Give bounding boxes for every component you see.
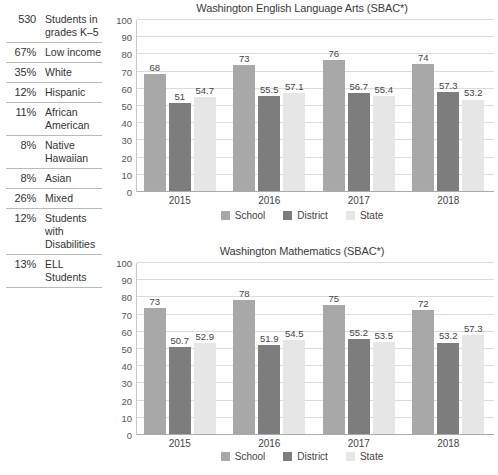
stat-row: 67%Low income	[6, 43, 102, 63]
bar-district-2016	[258, 96, 280, 191]
bar-value-label: 54.7	[196, 85, 215, 96]
bar-school-2016	[233, 65, 255, 191]
bar-state-2018	[462, 335, 484, 434]
bar-district-2017	[348, 339, 370, 434]
bar-state-2016	[283, 93, 305, 191]
stat-label: White	[45, 66, 72, 79]
bar-value-label: 72	[418, 298, 429, 309]
stat-label: Mixed	[45, 192, 73, 205]
y-axis: 0102030405060708090100	[110, 263, 132, 435]
y-axis-tick-label: 40	[121, 118, 132, 129]
bar-value-label: 55.2	[350, 327, 369, 338]
plot-canvas: 685154.720157355.557.120167656.755.42017…	[136, 20, 494, 192]
stat-value: 8%	[6, 139, 36, 152]
gridline	[137, 279, 494, 280]
bar-school-2015	[144, 74, 166, 191]
chart-legend: SchoolDistrictState	[110, 451, 494, 462]
bar-district-2015	[169, 347, 191, 434]
legend-item-state[interactable]: State	[346, 451, 383, 462]
legend-item-district[interactable]: District	[283, 210, 328, 221]
stat-row: 35%White	[6, 63, 102, 83]
y-axis-tick-label: 10	[121, 412, 132, 423]
plot-area: 0102030405060708090100685154.720157355.5…	[110, 20, 494, 192]
stat-value: 530	[6, 13, 36, 26]
bar-state-2018	[462, 100, 484, 192]
x-axis-category-label: 2018	[437, 195, 459, 206]
y-axis-tick-label: 90	[121, 32, 132, 43]
y-axis-tick-label: 70	[121, 309, 132, 320]
x-axis-category-label: 2015	[169, 438, 191, 449]
legend-swatch-icon	[346, 211, 355, 220]
bar-value-label: 57.3	[464, 323, 483, 334]
legend-item-school[interactable]: School	[221, 451, 266, 462]
y-axis-tick-label: 100	[116, 258, 132, 269]
y-axis-tick-label: 80	[121, 292, 132, 303]
stat-label: Asian	[45, 172, 71, 185]
legend-item-school[interactable]: School	[221, 210, 266, 221]
chart-title: Washington Mathematics (SBAC*)	[110, 245, 494, 257]
y-axis-tick-label: 0	[127, 187, 132, 198]
y-axis: 0102030405060708090100	[110, 20, 132, 192]
stat-row: 530Students in grades K–5	[6, 10, 102, 43]
gridline	[137, 53, 494, 54]
legend-label: District	[297, 451, 328, 462]
bar-district-2018	[437, 343, 459, 435]
bar-school-2018	[412, 310, 434, 434]
legend-item-district[interactable]: District	[283, 451, 328, 462]
bar-value-label: 53.5	[375, 330, 394, 341]
stat-label: Students with Disabilities	[45, 212, 102, 251]
stat-value: 13%	[6, 258, 36, 271]
legend-label: State	[360, 451, 383, 462]
legend-label: State	[360, 210, 383, 221]
stat-label: African American	[45, 106, 102, 132]
gridline	[137, 191, 494, 192]
legend-swatch-icon	[283, 452, 292, 461]
bar-value-label: 78	[239, 288, 250, 299]
chart-english-language-arts: Washington English Language Arts (SBAC*)…	[110, 2, 494, 238]
x-axis-category-label: 2018	[437, 438, 459, 449]
y-axis-tick-label: 10	[121, 169, 132, 180]
gridline	[137, 19, 494, 20]
stat-row: 12%Students with Disabilities	[6, 209, 102, 255]
bar-state-2016	[283, 340, 305, 434]
x-axis-category-label: 2017	[348, 195, 370, 206]
y-axis-tick-label: 30	[121, 135, 132, 146]
stat-row: 8%Asian	[6, 169, 102, 189]
bar-value-label: 57.1	[285, 81, 304, 92]
legend-swatch-icon	[221, 452, 230, 461]
legend-item-state[interactable]: State	[346, 210, 383, 221]
stat-label: Students in grades K–5	[45, 13, 102, 39]
bar-value-label: 53.2	[439, 330, 458, 341]
gridline	[137, 314, 494, 315]
bar-value-label: 54.5	[285, 328, 304, 339]
bar-value-label: 76	[328, 48, 339, 59]
bar-value-label: 50.7	[171, 335, 190, 346]
bar-value-label: 51	[174, 91, 185, 102]
legend-label: District	[297, 210, 328, 221]
stat-row: 8%Native Hawaiian	[6, 136, 102, 169]
legend-swatch-icon	[283, 211, 292, 220]
x-axis-category-label: 2015	[169, 195, 191, 206]
gridline	[137, 71, 494, 72]
stat-value: 67%	[6, 46, 36, 59]
stat-label: Native Hawaiian	[45, 139, 102, 165]
y-axis-tick-label: 70	[121, 66, 132, 77]
stat-label: Low income	[45, 46, 101, 59]
bar-value-label: 51.9	[260, 333, 279, 344]
gridline	[137, 36, 494, 37]
bar-school-2016	[233, 300, 255, 434]
stat-value: 12%	[6, 86, 36, 99]
bar-school-2017	[323, 60, 345, 191]
bar-district-2015	[169, 103, 191, 191]
y-axis-tick-label: 60	[121, 83, 132, 94]
bar-value-label: 73	[239, 53, 250, 64]
bar-value-label: 55.4	[375, 84, 394, 95]
bar-value-label: 52.9	[196, 331, 215, 342]
school-demographics-table: 530Students in grades K–567%Low income35…	[6, 10, 102, 288]
legend-label: School	[235, 210, 266, 221]
y-axis-tick-label: 100	[116, 15, 132, 26]
y-axis-tick-label: 90	[121, 275, 132, 286]
y-axis-tick-label: 20	[121, 395, 132, 406]
legend-swatch-icon	[221, 211, 230, 220]
plot-area: 01020304050607080901007350.752.920157851…	[110, 263, 494, 435]
